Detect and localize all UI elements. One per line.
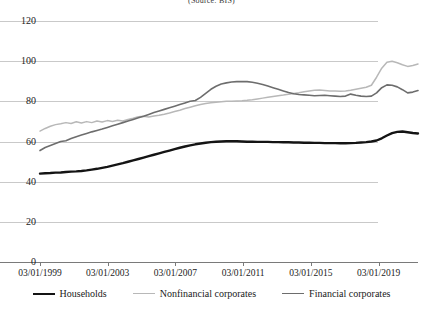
x-tick-mark-4 <box>311 262 312 266</box>
y-tick-label-20: 20 <box>4 217 36 227</box>
legend-swatch-households <box>33 293 55 295</box>
x-tick-label-0: 03/01/1999 <box>18 268 61 278</box>
legend-item-financial[interactable]: Financial corporates <box>282 288 390 299</box>
x-tick-mark-2 <box>175 262 176 266</box>
legend-item-nonfinancial[interactable]: Nonfinancial corporates <box>133 288 256 299</box>
y-tick-label-40: 40 <box>4 177 36 187</box>
series-plot-area <box>40 21 418 262</box>
x-tick-label-2: 03/01/2007 <box>154 268 197 278</box>
chart-title-partial: (Source: BIS) <box>0 0 423 6</box>
x-tick-label-5: 03/01/2019 <box>357 268 400 278</box>
legend-swatch-nonfinancial <box>133 293 155 294</box>
y-tick-label-80: 80 <box>4 96 36 106</box>
legend-label-financial: Financial corporates <box>309 288 390 299</box>
legend-swatch-financial <box>282 293 304 294</box>
series-line-households <box>40 131 418 173</box>
chart-legend: HouseholdsNonfinancial corporatesFinanci… <box>0 288 423 299</box>
legend-label-households: Households <box>60 288 107 299</box>
x-tick-label-3: 03/01/2011 <box>222 268 265 278</box>
x-tick-label-1: 03/01/2003 <box>86 268 129 278</box>
y-tick-label-60: 60 <box>4 137 36 147</box>
x-tick-mark-5 <box>379 262 380 266</box>
chart-container: (Source: BIS) 020406080100120 03/01/1999… <box>0 0 423 312</box>
legend-label-nonfinancial: Nonfinancial corporates <box>160 288 256 299</box>
x-tick-mark-1 <box>108 262 109 266</box>
x-tick-mark-0 <box>40 262 41 266</box>
legend-item-households[interactable]: Households <box>33 288 107 299</box>
x-axis-line <box>40 262 418 263</box>
y-tick-label-120: 120 <box>4 16 36 26</box>
y-tick-label-100: 100 <box>4 56 36 66</box>
x-tick-mark-3 <box>243 262 244 266</box>
x-tick-label-4: 03/01/2015 <box>289 268 332 278</box>
y-tick-label-0: 0 <box>4 257 36 267</box>
